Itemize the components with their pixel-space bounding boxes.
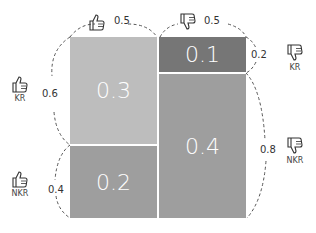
thumbs-up-icon — [12, 75, 28, 93]
top-positive-value: 0.5 — [114, 15, 130, 26]
cell-value: 0.2 — [96, 170, 131, 195]
thumbs-down-icon — [180, 13, 196, 31]
cell-value: 0.3 — [96, 78, 131, 103]
cell-value: 0.4 — [185, 134, 220, 159]
left-nkr-value: 0.4 — [48, 184, 64, 195]
cell-kr-thumbs-up: 0.3 — [70, 37, 157, 144]
left-kr-label: KR — [12, 94, 28, 103]
right-kr-value: 0.2 — [251, 49, 267, 60]
left-nkr-label: NKR — [8, 189, 32, 198]
right-nkr-value: 0.8 — [260, 144, 276, 155]
right-nkr-label: NKR — [283, 156, 307, 165]
cell-nkr-thumbs-up: 0.2 — [70, 146, 157, 218]
thumbs-down-icon — [287, 137, 303, 155]
thumbs-down-icon — [287, 44, 303, 62]
thumbs-up-icon — [12, 170, 28, 188]
left-kr-value: 0.6 — [42, 88, 58, 99]
thumbs-up-icon — [89, 13, 105, 31]
cell-kr-thumbs-down: 0.1 — [159, 37, 246, 72]
dashed-brace-arcs — [0, 0, 316, 233]
right-kr-label: KR — [287, 63, 303, 72]
top-negative-value: 0.5 — [204, 15, 220, 26]
cell-value: 0.1 — [185, 42, 220, 67]
cell-nkr-thumbs-down: 0.4 — [159, 74, 246, 218]
